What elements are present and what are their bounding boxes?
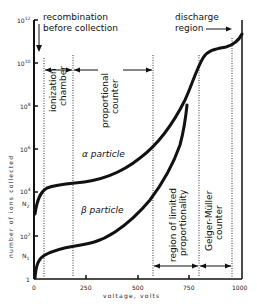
svg-text:discharge: discharge (175, 12, 219, 22)
svg-text:250: 250 (80, 284, 92, 291)
svg-text:recombination: recombination (43, 12, 108, 22)
svg-text:N1: N1 (22, 252, 30, 261)
beta-label: β particle (80, 205, 124, 215)
svg-text:ionization: ionization (48, 68, 58, 112)
svg-text:Geiger-Müller: Geiger-Müller (204, 190, 214, 251)
discharge-annotation: discharge region (175, 12, 232, 33)
svg-text:102: 102 (20, 232, 31, 240)
y-tick-labels: 1012 1010 108 106 104 N2 102 N1 1 (17, 16, 31, 283)
svg-text:106: 106 (20, 145, 31, 153)
recombination-annotation: recombination before collection (36, 12, 118, 52)
alpha-label: α particle (82, 149, 125, 159)
ionization-chamber-annotation: ionization chamber (45, 66, 72, 112)
svg-text:104: 104 (20, 187, 31, 195)
svg-text:chamber: chamber (58, 66, 68, 106)
svg-text:1010: 1010 (17, 59, 31, 67)
geiger-muller-annotation: Geiger-Müller counter (200, 190, 231, 268)
svg-text:1000: 1000 (232, 284, 247, 291)
svg-text:proportional: proportional (100, 73, 110, 128)
svg-text:region: region (175, 23, 203, 33)
beta-particle-curve (35, 105, 187, 278)
svg-text:before collection: before collection (43, 23, 118, 33)
svg-text:N2: N2 (22, 200, 30, 209)
x-tick-labels: 0 250 500 750 1000 (32, 284, 247, 291)
y-axis-title: number of ions collected (7, 155, 14, 258)
svg-text:1: 1 (26, 276, 30, 283)
limited-proportionality-annotation: region of limited proportionality (154, 188, 198, 268)
svg-text:1012: 1012 (17, 16, 31, 24)
svg-text:750: 750 (183, 284, 195, 291)
svg-text:0: 0 (32, 284, 36, 291)
alpha-particle-curve (35, 34, 242, 214)
svg-text:region of limited: region of limited (168, 188, 178, 262)
svg-text:500: 500 (132, 284, 144, 291)
ionization-chart: 1012 1010 108 106 104 N2 102 N1 1 0 250 … (0, 0, 257, 304)
svg-text:108: 108 (20, 102, 31, 110)
x-axis-title: voltage, volts (103, 292, 160, 300)
svg-text:proportionality: proportionality (178, 189, 188, 256)
svg-text:counter: counter (110, 79, 120, 114)
proportional-counter-annotation: proportional counter (74, 68, 152, 129)
svg-text:counter: counter (214, 205, 224, 240)
